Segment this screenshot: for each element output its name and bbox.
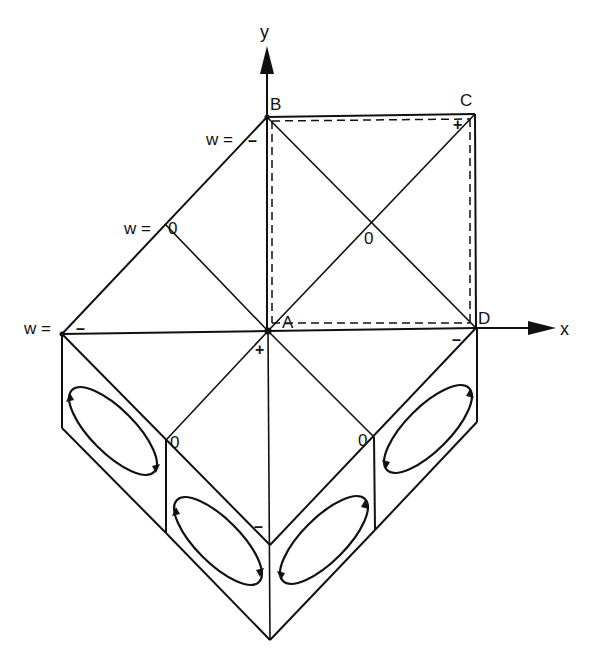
circulation-loop-right-outer [371,372,484,485]
w-label-left: w = [23,319,51,338]
point-a-label: A [282,313,294,332]
square-bcda [267,114,476,331]
sign-center-o: 0 [364,229,373,248]
sign-at-b: – [248,132,257,149]
vertex-a-dot [265,328,272,335]
sign-mid-left: 0 [168,219,177,238]
w-label-top: w = [205,130,233,149]
upper-left-region [62,117,268,334]
sign-at-c: + [453,116,462,133]
vertex-b-dot [265,115,270,120]
circulation-loop-left-outer [56,374,169,487]
loop-arrow-icon [277,571,285,580]
sign-below-a: + [255,341,264,358]
sign-bottom-mid-minus: – [254,518,263,535]
sign-lower-left-zero: 0 [170,433,179,452]
y-axis-label: y [260,22,269,42]
x-axis-arrow-icon [528,321,556,335]
y-axis-arrow-icon [260,46,274,74]
point-b-label: B [270,95,281,114]
vertex-left-dot [60,332,65,337]
sign-at-left: – [76,320,85,337]
sign-below-d: – [452,331,461,348]
circulation-loop-right-inner [267,483,380,596]
circulation-loop-left-inner [161,484,274,597]
point-c-label: C [460,91,472,110]
w-label-mid: w = [123,219,151,238]
sign-lower-right-zero: 0 [358,431,367,450]
lower-region [62,328,477,640]
point-d-label: D [478,309,490,328]
x-axis-label: x [560,319,569,339]
loop-arrow-icon [66,393,74,402]
wave-diagram: y x [0,0,592,669]
